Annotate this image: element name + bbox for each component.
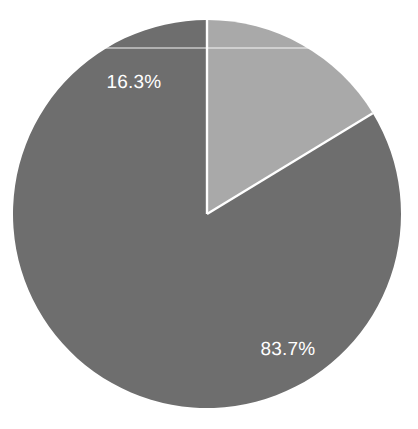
pie-chart-canvas [0, 0, 418, 429]
pie-chart-figure: 83.7% 16.3% [0, 0, 418, 429]
